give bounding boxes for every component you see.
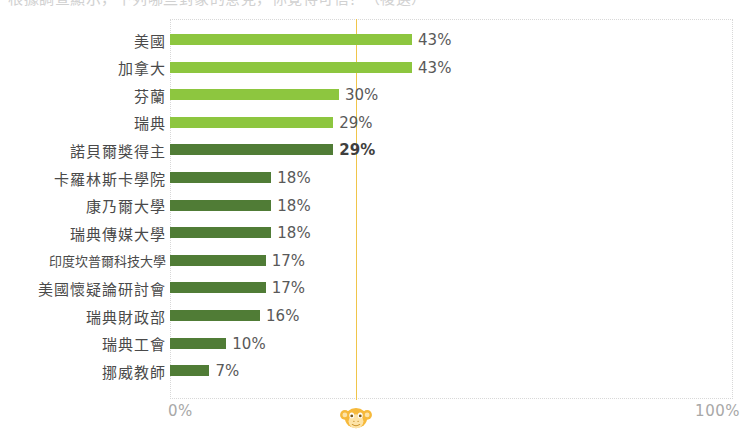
bar [170, 338, 226, 349]
bar-value-label: 18% [271, 193, 310, 219]
bar-value-label: 16% [260, 303, 299, 329]
category-label: 美國懷疑論研討會 [38, 275, 166, 301]
bar-chart: 美國43%加拿大43%芬蘭30%瑞典29%諾貝爾獎得主29%卡羅林斯卡學院18%… [0, 0, 752, 435]
category-label: 瑞典 [134, 110, 166, 136]
bar [170, 89, 339, 100]
bar [170, 200, 271, 211]
category-label: 卡羅林斯卡學院 [54, 165, 166, 191]
bar-row: 瑞典傳媒大學18% [0, 220, 752, 246]
category-label: 印度坎普爾科技大學 [49, 248, 166, 274]
bar [170, 34, 412, 45]
bar-row: 美國43% [0, 27, 752, 53]
bar [170, 62, 412, 73]
bar [170, 310, 260, 321]
category-label: 瑞典財政部 [86, 303, 166, 329]
bar-value-label: 43% [412, 27, 451, 53]
bar-row: 瑞典工會10% [0, 331, 752, 357]
bar-row: 加拿大43% [0, 55, 752, 81]
bar-value-label: 17% [266, 248, 305, 274]
bar-row: 康乃爾大學18% [0, 193, 752, 219]
x-axis: 0% 100% [0, 402, 752, 426]
category-label: 諾貝爾獎得主 [70, 137, 166, 163]
axis-tick-max: 100% [695, 402, 740, 420]
bar-row: 瑞典29% [0, 110, 752, 136]
bar-value-label: 29% [333, 110, 372, 136]
bar [170, 117, 333, 128]
bar-row: 瑞典財政部16% [0, 303, 752, 329]
bar [170, 365, 209, 376]
bar [170, 172, 271, 183]
bar [170, 144, 333, 155]
category-label: 美國 [134, 27, 166, 53]
axis-tick-min: 0% [168, 402, 193, 420]
category-label: 瑞典工會 [102, 331, 166, 357]
monkey-logo-icon [339, 400, 373, 434]
bar [170, 255, 266, 266]
bar-value-label: 17% [266, 275, 305, 301]
bar-value-label: 18% [271, 220, 310, 246]
bar [170, 227, 271, 238]
category-label: 瑞典傳媒大學 [70, 220, 166, 246]
bar-value-label: 43% [412, 55, 451, 81]
bar-value-label: 7% [209, 358, 239, 384]
bar-row: 美國懷疑論研討會17% [0, 275, 752, 301]
bar-value-label: 29% [333, 137, 375, 163]
bar-row: 諾貝爾獎得主29% [0, 137, 752, 163]
category-label: 康乃爾大學 [86, 193, 166, 219]
bar-row: 挪威教師7% [0, 358, 752, 384]
bar [170, 282, 266, 293]
category-label: 芬蘭 [134, 82, 166, 108]
category-label: 加拿大 [118, 55, 166, 81]
category-label: 挪威教師 [102, 358, 166, 384]
bar-row: 芬蘭30% [0, 82, 752, 108]
bar-row: 印度坎普爾科技大學17% [0, 248, 752, 274]
bar-value-label: 18% [271, 165, 310, 191]
bar-value-label: 30% [339, 82, 378, 108]
bar-row: 卡羅林斯卡學院18% [0, 165, 752, 191]
bar-value-label: 10% [226, 331, 265, 357]
